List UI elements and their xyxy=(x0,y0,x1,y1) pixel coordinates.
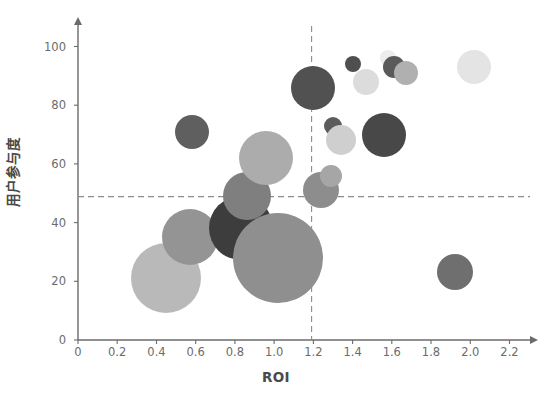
bubble-series xyxy=(0,0,552,405)
bubble-point xyxy=(457,50,491,84)
bubble-point xyxy=(394,61,418,85)
bubble-point xyxy=(353,69,379,95)
bubble-point xyxy=(239,131,293,185)
bubble-point xyxy=(362,113,406,157)
bubble-chart-figure: 0 0.2 0.4 0.6 0.8 1.0 1.2 1.4 1.6 1.8 2.… xyxy=(0,0,552,405)
bubble-point xyxy=(175,115,209,149)
bubble-point xyxy=(320,165,342,187)
bubble-point xyxy=(437,254,473,290)
bubble-point xyxy=(326,125,356,155)
bubble-point xyxy=(345,56,361,72)
bubble-point xyxy=(291,66,335,110)
bubble-point xyxy=(233,213,323,303)
